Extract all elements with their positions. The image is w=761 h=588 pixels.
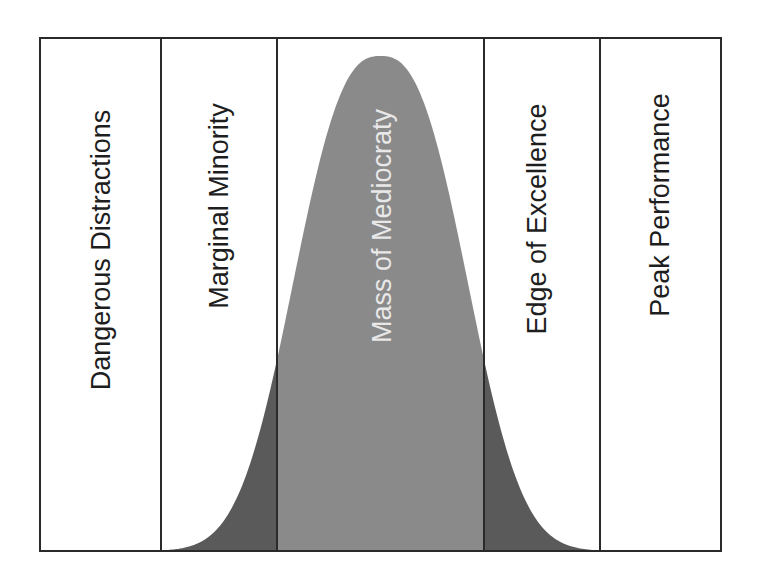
bell-curve-diagram: Dangerous Distractions Marginal Minority…	[0, 0, 761, 588]
segment-label-dangerous-distractions: Dangerous Distractions	[86, 110, 116, 391]
segment-label-marginal-minority: Marginal Minority	[204, 103, 234, 309]
segment-label-peak-performance: Peak Performance	[645, 93, 675, 317]
segment-label-edge-of-excellence: Edge of Excellence	[522, 103, 552, 334]
segment-label-mass-of-mediocraty: Mass of Mediocraty	[367, 108, 397, 343]
